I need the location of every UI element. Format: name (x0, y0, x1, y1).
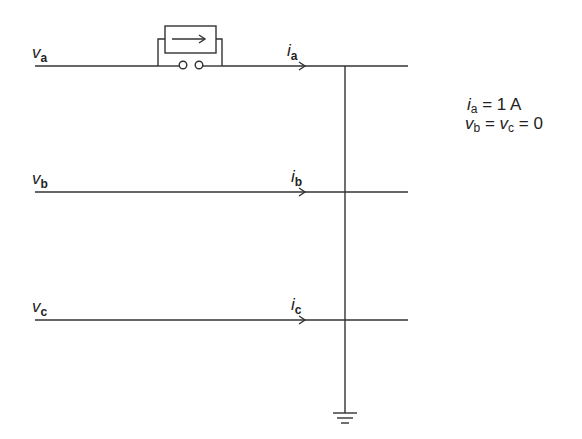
current-label-c: ic (291, 296, 301, 316)
current-label-a: ia (287, 42, 297, 62)
voltage-label-a: va (32, 44, 47, 64)
device-bracket-left (158, 39, 165, 66)
switch-contact-right-icon (195, 61, 203, 69)
device-bracket-right (216, 39, 222, 66)
voltage-label-c: vc (32, 298, 47, 318)
current-label-b: ib (291, 168, 302, 188)
voltage-label-b: vb (32, 170, 48, 190)
condition-voltages: vb = vc = 0 (465, 114, 543, 138)
switch-contact-left-icon (179, 61, 187, 69)
circuit-diagram (0, 0, 582, 439)
ground-icon (333, 413, 357, 423)
